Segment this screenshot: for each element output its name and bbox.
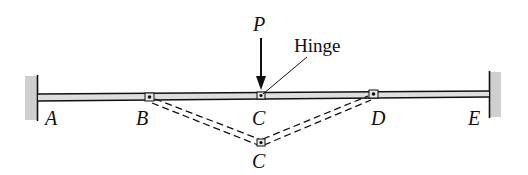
point-label-c: C <box>252 107 266 129</box>
point-label-d: D <box>370 107 386 129</box>
right-fixed-support <box>490 71 502 118</box>
hinge-leader-line <box>263 57 307 94</box>
hinge-c-deflected <box>257 139 265 146</box>
point-label-a: A <box>43 107 58 129</box>
hinge-annotation: Hinge <box>294 35 340 56</box>
load-label: P <box>252 13 265 35</box>
point-label-e: E <box>467 107 480 129</box>
point-label-c-deflected: C <box>252 150 266 172</box>
left-fixed-support <box>25 75 38 121</box>
load-arrow-icon <box>256 38 266 90</box>
hinge-d <box>369 90 378 98</box>
point-label-b: B <box>136 107 148 129</box>
beam-diagram: P Hinge A B C D E C <box>0 0 528 175</box>
hinge-b <box>145 93 154 101</box>
